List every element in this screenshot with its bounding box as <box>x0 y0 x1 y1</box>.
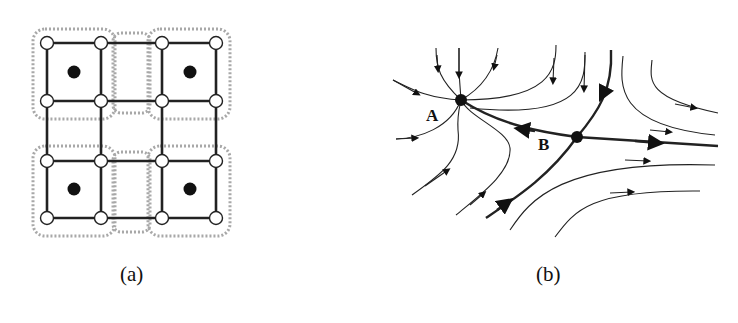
caption-b: (b) <box>536 262 561 287</box>
panel-b-phase-portrait <box>393 45 718 237</box>
dashed-group-bottom-middle <box>113 152 150 232</box>
cell-center-dots <box>68 66 197 196</box>
grid-nodes <box>41 37 223 225</box>
point-a-label: A <box>426 106 438 126</box>
point-b-node <box>571 131 583 143</box>
caption-a: (a) <box>120 262 143 287</box>
point-b-label: B <box>538 135 549 155</box>
point-a-node <box>455 94 467 106</box>
panel-a-grid <box>33 29 230 236</box>
diagram-canvas <box>0 0 738 323</box>
